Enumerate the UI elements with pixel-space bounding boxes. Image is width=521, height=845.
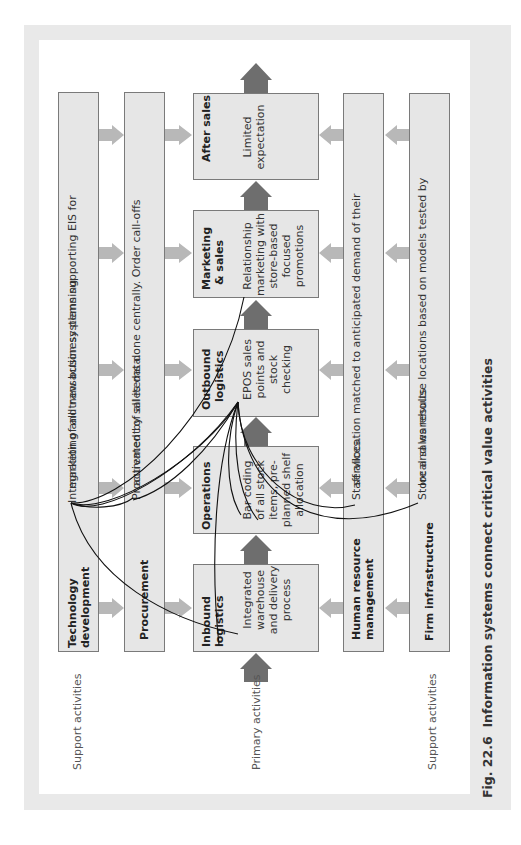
information-links xyxy=(71,297,418,645)
link-techdev-outbound-2 xyxy=(71,403,238,505)
link-techdev-inbound xyxy=(71,503,238,634)
link-techdev-marketing xyxy=(71,297,244,503)
connectors-layer xyxy=(0,0,521,845)
link-outbound-inbound xyxy=(215,402,238,645)
link-outbound-firm xyxy=(238,402,418,519)
link-outbound-operations-2 xyxy=(236,402,258,520)
link-outbound-operations xyxy=(229,402,241,515)
link-outbound-procurement xyxy=(133,402,238,500)
link-outbound-hr xyxy=(238,402,355,508)
